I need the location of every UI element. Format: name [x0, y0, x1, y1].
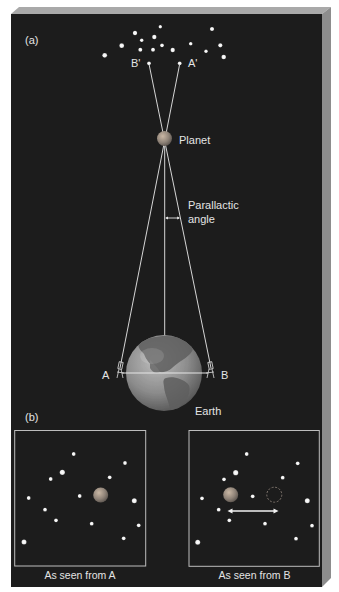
view-a-caption: As seen from A: [14, 569, 146, 581]
view-b-planet: [223, 487, 238, 502]
planet-label: Planet: [179, 134, 210, 147]
view-b-caption: As seen from B: [189, 569, 320, 581]
star-a-prime-label: A': [188, 57, 197, 70]
side-bevel: [322, 7, 331, 587]
parallactic-angle-label-line1: Parallactic: [188, 199, 239, 212]
parallactic-angle-label-line2: angle: [188, 213, 215, 226]
earth-label: Earth: [195, 405, 221, 418]
planet: [157, 131, 172, 146]
diagram-canvas: [0, 0, 339, 592]
view-a-planet: [93, 488, 108, 503]
observer-b-label: B: [221, 369, 228, 382]
panel-b-label: (b): [25, 411, 38, 424]
panel-a-label: (a): [25, 34, 38, 47]
observer-a-label: A: [102, 369, 109, 382]
parallax-diagram: (a) B' A' Planet Parallactic angle A B E…: [0, 0, 339, 592]
star-b-prime-label: B': [131, 57, 140, 70]
dark-panel: [11, 14, 322, 587]
top-bevel: [11, 7, 331, 14]
